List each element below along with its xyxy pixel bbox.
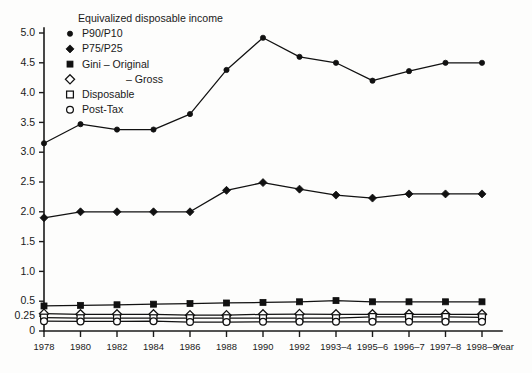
data-point-filled-square bbox=[187, 301, 193, 307]
data-point-filled-circle bbox=[260, 35, 265, 40]
series-p75-p25 bbox=[40, 179, 486, 222]
data-point-filled-square bbox=[406, 299, 412, 305]
y-tick-label: 3.5 bbox=[20, 116, 35, 128]
legend-entry-label[interactable]: Gini – Original bbox=[82, 58, 149, 70]
data-point-filled-circle bbox=[333, 60, 338, 65]
legend-entry-label[interactable]: P90/P10 bbox=[82, 27, 123, 39]
data-point-filled-circle bbox=[224, 67, 229, 72]
y-tick-label: 1.5 bbox=[20, 235, 35, 247]
data-point-filled-diamond bbox=[150, 208, 158, 216]
series-gini-original bbox=[41, 298, 485, 309]
data-point-open-circle bbox=[67, 106, 74, 113]
data-point-filled-diamond bbox=[296, 185, 304, 193]
x-tick-label: 1978 bbox=[34, 341, 55, 352]
data-point-open-circle bbox=[187, 319, 194, 326]
data-point-filled-square bbox=[67, 61, 73, 67]
data-point-filled-diamond bbox=[332, 191, 340, 199]
data-point-open-square bbox=[67, 91, 74, 98]
legend-title: Equivalized disposable income bbox=[78, 12, 223, 24]
data-point-open-circle bbox=[150, 318, 157, 325]
y-tick-label: 0.25 bbox=[15, 309, 36, 321]
data-point-filled-square bbox=[443, 299, 449, 305]
data-point-open-circle bbox=[41, 318, 48, 325]
series-post-tax bbox=[41, 318, 486, 326]
legend-entry-label[interactable]: Post-Tax bbox=[82, 103, 124, 115]
x-axis-title: Year bbox=[495, 341, 514, 352]
legend-entry-label[interactable]: P75/P25 bbox=[82, 42, 123, 54]
x-tick-label: 1993–4 bbox=[320, 341, 351, 352]
x-tick-label: 1988 bbox=[216, 341, 237, 352]
data-point-filled-diamond bbox=[478, 190, 486, 198]
data-point-filled-square bbox=[333, 298, 339, 304]
y-tick-label: 5.0 bbox=[20, 26, 35, 38]
data-point-filled-square bbox=[297, 299, 303, 305]
data-point-filled-square bbox=[114, 302, 120, 308]
data-point-filled-diamond bbox=[40, 214, 48, 222]
series-line bbox=[44, 183, 482, 218]
x-tick-label: 1980 bbox=[70, 341, 91, 352]
data-point-filled-diamond bbox=[186, 208, 194, 216]
data-point-open-circle bbox=[260, 318, 267, 325]
data-point-open-circle bbox=[77, 318, 84, 325]
y-tick-label: 3.0 bbox=[20, 145, 35, 157]
data-point-open-circle bbox=[406, 318, 413, 325]
data-point-filled-circle bbox=[187, 111, 192, 116]
data-point-filled-square bbox=[78, 302, 84, 308]
y-tick-label: 0.5 bbox=[20, 294, 35, 306]
y-tick-label: 0 bbox=[29, 324, 35, 336]
data-point-open-circle bbox=[369, 318, 376, 325]
x-tick-label: 1998–9 bbox=[466, 341, 497, 352]
data-point-open-circle bbox=[442, 318, 449, 325]
data-point-filled-diamond bbox=[77, 208, 85, 216]
data-point-filled-circle bbox=[41, 141, 46, 146]
x-tick-label: 1990 bbox=[253, 341, 274, 352]
data-point-open-circle bbox=[296, 318, 303, 325]
data-point-filled-circle bbox=[443, 60, 448, 65]
axes-group bbox=[39, 28, 502, 337]
line-chart: 00.250.51.01.52.02.53.03.54.04.55.019781… bbox=[0, 0, 532, 373]
data-point-filled-diamond bbox=[223, 186, 231, 194]
data-point-filled-circle bbox=[297, 54, 302, 59]
legend: Equivalized disposable incomeP90/P10P75/… bbox=[65, 12, 223, 115]
data-point-filled-circle bbox=[78, 122, 83, 127]
data-point-filled-circle bbox=[151, 127, 156, 132]
data-point-filled-circle bbox=[479, 60, 484, 65]
data-point-filled-diamond bbox=[405, 190, 413, 198]
data-point-filled-diamond bbox=[259, 179, 267, 187]
y-tick-label: 1.0 bbox=[20, 265, 35, 277]
x-tick-label: 1997–8 bbox=[430, 341, 461, 352]
data-point-filled-circle bbox=[406, 69, 411, 74]
data-point-open-circle bbox=[223, 319, 230, 326]
data-point-filled-circle bbox=[114, 127, 119, 132]
data-point-filled-square bbox=[151, 301, 157, 307]
x-tick-label: 1986 bbox=[180, 341, 201, 352]
data-point-filled-diamond bbox=[113, 208, 121, 216]
legend-entry-label[interactable]: Disposable bbox=[82, 88, 135, 100]
x-tick-label: 1996–7 bbox=[393, 341, 424, 352]
data-point-filled-diamond bbox=[369, 194, 377, 202]
x-tick-label: 1982 bbox=[107, 341, 128, 352]
data-point-filled-diamond bbox=[442, 190, 450, 198]
data-point-filled-square bbox=[224, 300, 230, 306]
data-point-filled-diamond bbox=[66, 45, 74, 53]
data-point-open-diamond bbox=[65, 75, 74, 84]
data-point-filled-square bbox=[260, 299, 266, 305]
x-tick-label: 1995–6 bbox=[357, 341, 388, 352]
legend-entry-label[interactable]: – Gross bbox=[126, 73, 163, 85]
x-tick-label: 1984 bbox=[143, 341, 164, 352]
data-point-open-circle bbox=[479, 318, 486, 325]
data-point-filled-circle bbox=[67, 31, 72, 36]
y-tick-label: 4.5 bbox=[20, 56, 35, 68]
y-tick-label: 4.0 bbox=[20, 86, 35, 98]
y-tick-label: 2.0 bbox=[20, 205, 35, 217]
data-point-filled-circle bbox=[370, 78, 375, 83]
data-point-filled-square bbox=[370, 299, 376, 305]
x-tick-label: 1992 bbox=[289, 341, 310, 352]
data-point-open-circle bbox=[114, 318, 121, 325]
data-point-filled-square bbox=[479, 299, 485, 305]
data-point-open-circle bbox=[333, 318, 340, 325]
chart-container: 00.250.51.01.52.02.53.03.54.04.55.019781… bbox=[0, 0, 532, 373]
data-point-filled-square bbox=[41, 303, 47, 309]
y-tick-label: 2.5 bbox=[20, 175, 35, 187]
